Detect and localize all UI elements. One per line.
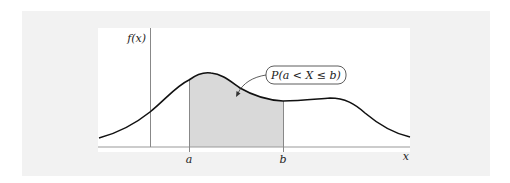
b-label: b <box>279 153 286 166</box>
shaded-probability-region <box>189 73 283 147</box>
density-plot: P(a < X ≤ b) f(x) x a b <box>0 0 510 183</box>
annotation-label: P(a < X ≤ b) <box>270 69 341 82</box>
a-label: a <box>186 153 193 166</box>
y-axis-label: f(x) <box>126 32 146 45</box>
x-axis-label: x <box>403 150 410 163</box>
